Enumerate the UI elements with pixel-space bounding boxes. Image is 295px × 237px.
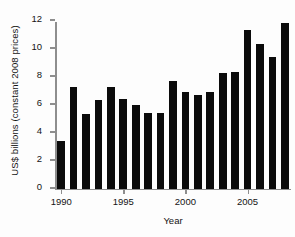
bar xyxy=(119,99,127,189)
bar xyxy=(194,95,202,188)
y-axis-tick: 4 xyxy=(50,131,55,132)
bar xyxy=(144,113,152,189)
x-axis-tick: 1990 xyxy=(61,190,62,194)
bar xyxy=(169,81,177,188)
y-axis-tick-label: 6 xyxy=(37,97,42,108)
y-axis-tick-label: 4 xyxy=(37,125,42,136)
bar-chart-figure: US$ billions (constant 2008 prices) 0246… xyxy=(0,0,295,237)
bar xyxy=(219,73,227,189)
y-axis-tick: 0 xyxy=(50,187,55,188)
bar xyxy=(132,105,140,189)
y-axis-tick: 6 xyxy=(50,103,55,104)
y-axis-tick: 2 xyxy=(50,159,55,160)
bar xyxy=(70,87,78,189)
x-axis-tick-label: 1995 xyxy=(113,196,134,207)
bar xyxy=(107,87,115,189)
bar xyxy=(206,92,214,189)
x-axis-tick: 2000 xyxy=(185,190,186,194)
bar xyxy=(269,57,277,189)
y-axis-tick-label: 12 xyxy=(31,13,42,24)
y-axis-title-label: US$ billions (constant 2008 prices) xyxy=(9,25,20,175)
y-axis-tick: 12 xyxy=(50,19,55,20)
bar xyxy=(256,44,264,189)
x-axis-tick: 2005 xyxy=(248,190,249,194)
x-axis-tick-label: 2005 xyxy=(237,196,258,207)
bar xyxy=(82,114,90,188)
x-axis-line xyxy=(55,189,291,191)
plot-area: 024681012 1990199520002005 xyxy=(55,14,291,190)
x-axis-tick-label: 1990 xyxy=(51,196,72,207)
x-axis-title: Year xyxy=(55,215,291,226)
y-axis-title: US$ billions (constant 2008 prices) xyxy=(2,0,26,200)
bar xyxy=(231,72,239,189)
bar xyxy=(57,141,65,189)
y-axis-tick-label: 8 xyxy=(37,69,42,80)
bar xyxy=(95,100,103,188)
y-axis-tick-label: 2 xyxy=(37,153,42,164)
bar xyxy=(182,92,190,189)
y-axis-tick: 10 xyxy=(50,47,55,48)
y-axis-line xyxy=(55,22,57,190)
bar xyxy=(157,113,165,189)
y-axis-tick: 8 xyxy=(50,75,55,76)
x-axis-tick: 1995 xyxy=(123,190,124,194)
bar xyxy=(244,30,252,188)
x-axis-tick-label: 2000 xyxy=(175,196,196,207)
bar xyxy=(281,23,289,188)
y-axis-tick-label: 10 xyxy=(31,41,42,52)
y-axis-tick-label: 0 xyxy=(37,181,42,192)
